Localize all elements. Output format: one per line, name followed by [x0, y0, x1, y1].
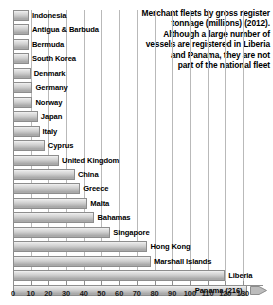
bar-united-kingdom	[13, 155, 59, 166]
tick-label-40: 40	[80, 289, 88, 298]
tick-label-60: 60	[115, 289, 123, 298]
bar-label: Marshall Islands	[151, 257, 212, 266]
bar-label: United Kingdom	[59, 156, 119, 165]
bar-label: Indonesia	[29, 11, 67, 20]
tick-label-20: 20	[44, 289, 52, 298]
bar-label: Greece	[80, 184, 108, 193]
tick-label-30: 30	[62, 289, 70, 298]
bar-italy	[13, 126, 40, 137]
bar-cyprus	[13, 140, 45, 151]
tick-20	[48, 281, 49, 286]
tick-50	[101, 281, 102, 286]
tick-80	[155, 281, 156, 286]
bar-japan	[13, 111, 38, 122]
tick-110	[208, 281, 209, 286]
tick-label-120: 120	[219, 289, 231, 298]
bar-bahamas	[13, 212, 94, 223]
bar-label: Malta	[87, 199, 109, 208]
bar-south-korea	[13, 53, 29, 64]
bar-label: Antigua & Barbuda	[29, 25, 99, 34]
tick-10	[31, 281, 32, 286]
tick-label-50: 50	[97, 289, 105, 298]
bar-label: Liberia	[225, 271, 252, 280]
plot-area: IndonesiaAntigua & BarbudaBermudaSouth K…	[0, 0, 273, 305]
bar-label: Italy	[40, 127, 58, 136]
bar-label: Denmark	[31, 69, 66, 78]
tick-label-0: 0	[11, 289, 15, 298]
gridline-130	[243, 10, 244, 285]
bar-label: Hong Kong	[147, 242, 190, 251]
tick-0	[13, 281, 14, 286]
bar-liberia	[13, 270, 225, 281]
tick-100	[190, 281, 191, 286]
tick-label-110: 110	[202, 289, 214, 298]
bar-label: Cyprus	[45, 141, 74, 150]
tick-label-80: 80	[150, 289, 158, 298]
tick-label-100: 100	[184, 289, 196, 298]
bar-label: South Korea	[29, 54, 76, 63]
tick-label-70: 70	[133, 289, 141, 298]
bar-indonesia	[13, 10, 29, 21]
tick-120	[225, 281, 226, 286]
gridline-110	[208, 10, 209, 285]
tick-label-10: 10	[27, 289, 35, 298]
bar-germany	[13, 82, 32, 93]
tick-label-90: 90	[168, 289, 176, 298]
merchant-fleet-bar-chart: Merchant fleets by gross register tonnag…	[0, 0, 273, 305]
tick-40	[84, 281, 85, 286]
tick-30	[66, 281, 67, 286]
bar-label: Bermuda	[29, 40, 64, 49]
tick-label-130: 130	[237, 289, 249, 298]
bar-denmark	[13, 68, 31, 79]
bar-singapore	[13, 227, 110, 238]
bar-label: Bahamas	[94, 213, 130, 222]
bar-label: China	[75, 170, 99, 179]
bar-norway	[13, 97, 32, 108]
tick-70	[137, 281, 138, 286]
tick-90	[172, 281, 173, 286]
bar-marshall-islands	[13, 256, 151, 267]
gridline-120	[225, 10, 226, 285]
bar-malta	[13, 198, 87, 209]
bar-greece	[13, 183, 80, 194]
tick-60	[119, 281, 120, 286]
overflow-arrow-icon	[250, 285, 267, 296]
bar-hong-kong	[13, 241, 147, 252]
tick-130	[243, 281, 244, 286]
bar-china	[13, 169, 75, 180]
bar-label: Germany	[32, 83, 67, 92]
bar-bermuda	[13, 39, 29, 50]
bar-label: Singapore	[110, 228, 149, 237]
bar-label: Japan	[38, 112, 62, 121]
bar-label: Norway	[32, 98, 62, 107]
bar-antigua-barbuda	[13, 24, 29, 35]
